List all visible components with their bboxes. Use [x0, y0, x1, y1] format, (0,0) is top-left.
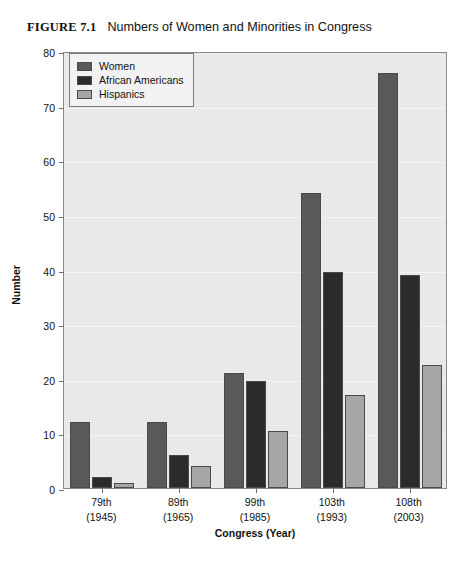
x-axis-tick: [102, 488, 103, 493]
x-axis-tick: [333, 488, 334, 493]
legend-item-label: African Americans: [99, 74, 184, 86]
bar: [169, 455, 189, 488]
bar: [224, 373, 244, 488]
y-axis-tick: [59, 326, 64, 327]
x-axis-year-label: (1985): [240, 510, 270, 525]
bar: [422, 365, 442, 488]
x-axis-year-label: (1965): [163, 510, 193, 525]
legend-swatch: [77, 76, 92, 85]
x-axis-tick: [179, 488, 180, 493]
x-axis-congress-label: 79th: [86, 495, 116, 510]
bar: [246, 381, 266, 488]
y-axis-tick: [59, 490, 64, 491]
y-axis-tick-label: 40: [43, 266, 55, 278]
legend-item: African Americans: [77, 73, 184, 87]
chart-legend: WomenAfrican AmericansHispanics: [69, 53, 194, 107]
y-axis-tick-label: 30: [43, 320, 55, 332]
y-axis-tick-label: 0: [49, 484, 55, 496]
x-axis-group-label: 89th(1965): [163, 495, 193, 524]
x-axis-title: Congress (Year): [215, 527, 296, 539]
y-axis-tick: [59, 108, 64, 109]
x-axis-group-label: 79th(1945): [86, 495, 116, 524]
bar: [191, 466, 211, 488]
x-axis-congress-label: 103th: [317, 495, 347, 510]
x-axis-year-label: (2003): [393, 510, 423, 525]
x-axis-group-label: 99th(1985): [240, 495, 270, 524]
legend-item: Women: [77, 59, 184, 73]
y-axis-tick: [59, 162, 64, 163]
x-axis-congress-label: 108th: [393, 495, 423, 510]
y-axis-tick: [59, 217, 64, 218]
legend-swatch: [77, 90, 92, 99]
plot-area: 01020304050607080: [63, 52, 447, 489]
x-axis-year-label: (1945): [86, 510, 116, 525]
legend-swatch: [77, 62, 92, 71]
bar: [114, 483, 134, 488]
bar: [70, 422, 90, 488]
x-axis-group-label: 103th(1993): [317, 495, 347, 524]
y-axis-tick: [59, 53, 64, 54]
bar: [92, 477, 112, 488]
x-axis-group-label: 108th(2003): [393, 495, 423, 524]
bar-chart: Number 01020304050607080 79th(1945)89th(…: [0, 0, 462, 570]
legend-item-label: Women: [99, 60, 135, 72]
bar: [301, 193, 321, 488]
bar: [147, 422, 167, 488]
bar: [345, 395, 365, 488]
x-axis-tick: [256, 488, 257, 493]
y-axis-tick-label: 70: [43, 102, 55, 114]
bar: [378, 73, 398, 488]
y-axis-title: Number: [10, 265, 22, 305]
bar: [400, 275, 420, 488]
x-axis-congress-label: 89th: [163, 495, 193, 510]
x-axis-year-label: (1993): [317, 510, 347, 525]
y-axis-tick-label: 50: [43, 211, 55, 223]
y-axis-tick: [59, 272, 64, 273]
x-axis-congress-label: 99th: [240, 495, 270, 510]
y-axis-tick-label: 10: [43, 429, 55, 441]
bar: [268, 431, 288, 488]
y-axis-tick: [59, 435, 64, 436]
y-axis-tick-label: 80: [43, 47, 55, 59]
legend-item-label: Hispanics: [99, 88, 145, 100]
y-axis-tick-label: 20: [43, 375, 55, 387]
x-axis-tick: [410, 488, 411, 493]
y-axis-tick-label: 60: [43, 156, 55, 168]
bar: [323, 272, 343, 488]
y-axis-tick: [59, 381, 64, 382]
legend-item: Hispanics: [77, 87, 184, 101]
